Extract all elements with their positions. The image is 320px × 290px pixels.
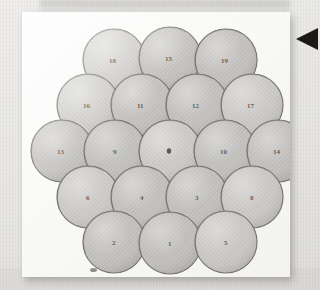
- sphere-label: 14: [273, 148, 281, 156]
- sphere-label: 9: [113, 148, 117, 156]
- sphere-label: 13: [57, 148, 65, 156]
- sphere-group: [31, 27, 290, 274]
- sphere-label: 11: [137, 102, 144, 110]
- sphere-packing-figure: 1815191611121713910146438215: [22, 12, 290, 277]
- sphere-label: 10: [220, 148, 228, 156]
- sphere-label: 16: [83, 102, 91, 110]
- sphere-label: 12: [192, 102, 200, 110]
- sphere-label: 19: [221, 57, 229, 65]
- sphere-label: 3: [195, 194, 199, 202]
- sphere-label: 1: [168, 240, 172, 248]
- plate-speck: [90, 268, 97, 272]
- left-pointing-arrow-icon: [296, 28, 318, 50]
- sphere-label: 17: [247, 102, 255, 110]
- sphere-label: 15: [165, 55, 173, 63]
- figure-plate: 1815191611121713910146438215: [22, 12, 290, 277]
- sphere-label: 2: [112, 239, 116, 247]
- center-sphere-mark: [167, 148, 171, 154]
- sphere-label: 4: [140, 194, 144, 202]
- sphere-packing-svg: 1815191611121713910146438215: [22, 12, 290, 277]
- sphere-label: 6: [86, 194, 90, 202]
- sphere-label: 18: [109, 57, 117, 65]
- sphere-label: 5: [224, 239, 228, 247]
- sphere-label: 8: [250, 194, 254, 202]
